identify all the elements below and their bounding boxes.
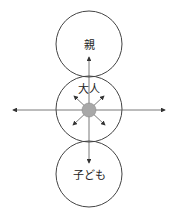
center-dot [82, 103, 96, 117]
diagram: 親 大人 子ども [0, 0, 177, 216]
label-parent: 親 [84, 39, 95, 52]
label-adult: 大人 [78, 82, 100, 96]
label-child: 子ども [73, 169, 106, 182]
